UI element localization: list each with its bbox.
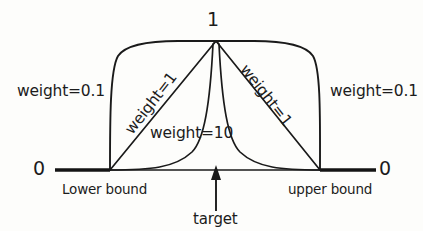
left-zero-label: 0 <box>33 159 45 178</box>
target-arrow-head <box>211 165 221 180</box>
desirability-function-figure: 1 0 0 weight=0.1 weight=0.1 weight=1 wei… <box>0 0 423 231</box>
right-zero-label: 0 <box>379 159 391 178</box>
target-label: target <box>193 212 237 227</box>
upper-bound-label: upper bound <box>288 183 372 197</box>
weight-label-center: weight=10 <box>150 126 233 142</box>
lower-bound-label: Lower bound <box>62 183 147 197</box>
weight-label-left-outer: weight=0.1 <box>17 84 105 100</box>
weight-label-right-outer: weight=0.1 <box>330 84 418 100</box>
peak-value-label: 1 <box>207 10 219 29</box>
